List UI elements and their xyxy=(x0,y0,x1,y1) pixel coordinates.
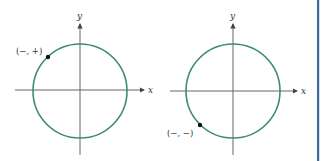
y-axis-label: y xyxy=(229,11,236,21)
point-marker xyxy=(198,123,202,127)
x-axis-label: x xyxy=(301,86,306,96)
point-label: (−, +) xyxy=(16,46,42,56)
page-border-rule xyxy=(317,0,319,161)
point-label: (−, −) xyxy=(167,128,193,138)
point-marker xyxy=(46,55,50,59)
unit-circle-diagram-right: (−, −) x y xyxy=(167,11,306,155)
unit-circle-diagram-left: (−, +) x y xyxy=(15,11,153,155)
diagram-canvas: (−, +) x y (−, −) x y xyxy=(0,0,321,161)
y-axis-label: y xyxy=(76,11,83,21)
x-axis-label: x xyxy=(148,85,153,95)
